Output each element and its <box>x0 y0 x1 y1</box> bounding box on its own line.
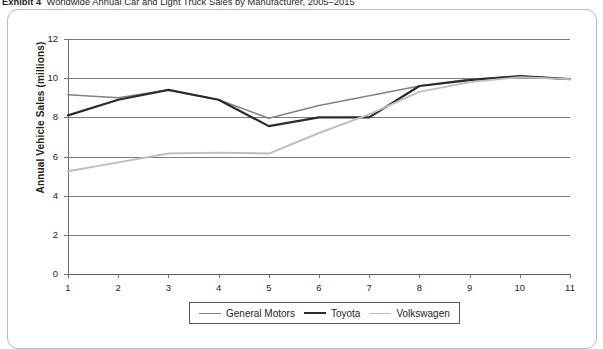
legend-swatch <box>304 312 326 314</box>
x-tick-label: 10 <box>507 283 533 293</box>
x-tick-label: 5 <box>256 283 282 293</box>
x-tick-label: 7 <box>356 283 382 293</box>
x-tick-mark <box>570 274 571 278</box>
x-tick-label: 2 <box>105 283 131 293</box>
y-tick-label: 0 <box>32 269 58 279</box>
x-tick-mark <box>419 274 420 278</box>
legend-label: Volkswagen <box>396 308 449 319</box>
x-tick-label: 4 <box>206 283 232 293</box>
x-tick-label: 1 <box>55 283 81 293</box>
y-axis-title: Annual Vehicle Sales (millions) <box>35 8 46 228</box>
legend-swatch <box>369 313 391 314</box>
chart-legend: General MotorsToyotaVolkswagen <box>189 302 460 324</box>
x-tick-mark <box>118 274 119 278</box>
x-tick-label: 3 <box>155 283 181 293</box>
series-line-toyota <box>68 76 570 126</box>
x-tick-mark <box>470 274 471 278</box>
x-tick-label: 11 <box>557 283 583 293</box>
x-tick-label: 6 <box>306 283 332 293</box>
legend-swatch <box>199 313 221 314</box>
x-tick-mark <box>369 274 370 278</box>
x-tick-mark <box>68 274 69 278</box>
x-tick-mark <box>319 274 320 278</box>
legend-label: Toyota <box>331 308 360 319</box>
x-tick-mark <box>168 274 169 278</box>
series-line-general-motors <box>68 76 570 118</box>
series-line-volkswagen <box>68 77 570 171</box>
legend-item-general-motors[interactable]: General Motors <box>199 308 295 319</box>
legend-label: General Motors <box>226 308 295 319</box>
x-tick-label: 9 <box>457 283 483 293</box>
legend-item-toyota[interactable]: Toyota <box>304 308 360 319</box>
x-tick-label: 8 <box>406 283 432 293</box>
series-plot <box>68 39 570 274</box>
x-tick-mark <box>520 274 521 278</box>
x-tick-mark <box>269 274 270 278</box>
x-tick-mark <box>219 274 220 278</box>
y-tick-label: 2 <box>32 230 58 240</box>
legend-item-volkswagen[interactable]: Volkswagen <box>369 308 449 319</box>
